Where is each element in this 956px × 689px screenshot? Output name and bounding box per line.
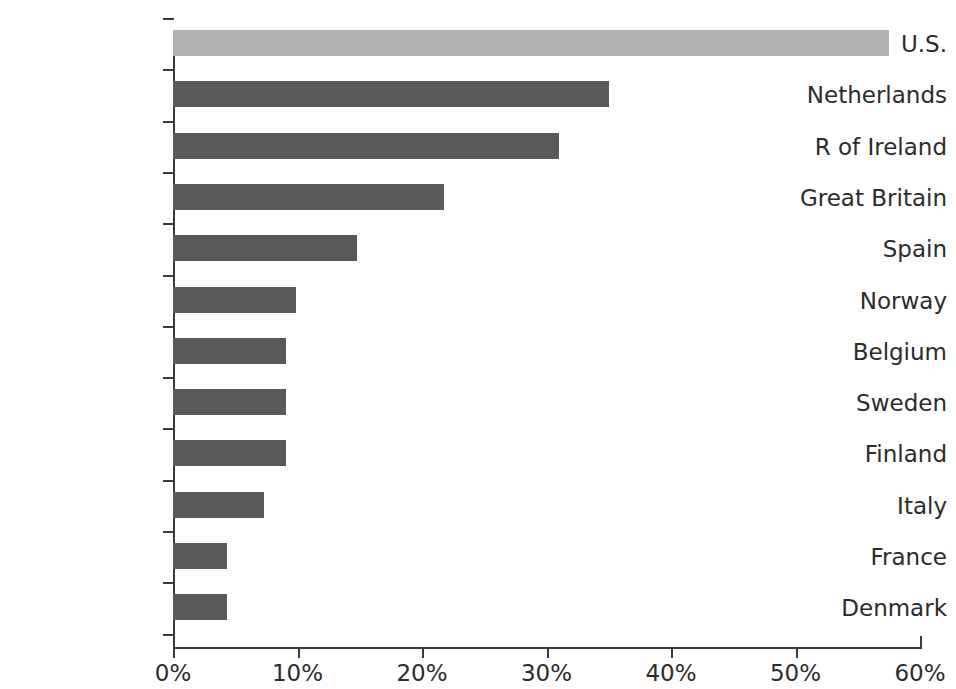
bar <box>173 440 286 466</box>
value-tick <box>796 647 798 658</box>
category-tick <box>163 480 174 482</box>
value-tick <box>422 647 424 658</box>
value-tick <box>173 647 175 658</box>
bar <box>173 594 227 620</box>
category-tick <box>163 326 174 328</box>
category-tick <box>163 428 174 430</box>
category-label: U.S. <box>788 31 956 57</box>
category-label: Belgium <box>788 339 956 365</box>
category-label: Italy <box>788 493 956 519</box>
category-tick <box>163 377 174 379</box>
value-tick <box>671 647 673 658</box>
category-label: Norway <box>788 288 956 314</box>
bar <box>173 81 609 107</box>
value-tick <box>920 636 922 649</box>
bar <box>173 235 357 261</box>
category-label: Sweden <box>788 390 956 416</box>
category-label: Netherlands <box>788 82 956 108</box>
category-tick <box>163 18 174 20</box>
category-tick <box>163 634 174 636</box>
category-tick <box>163 223 174 225</box>
category-label: R of Ireland <box>788 134 956 160</box>
category-tick <box>163 531 174 533</box>
bar <box>173 184 444 210</box>
bar <box>173 389 286 415</box>
value-tick <box>298 647 300 658</box>
value-tick-label: 50% <box>756 660 836 686</box>
bar <box>173 492 264 518</box>
bar-chart: U.S.NetherlandsR of IrelandGreat Britain… <box>0 0 956 689</box>
category-tick <box>163 275 174 277</box>
value-tick-label: 20% <box>382 660 462 686</box>
category-label: Denmark <box>788 595 956 621</box>
bar <box>173 287 296 313</box>
bar <box>173 133 559 159</box>
value-tick-label: 0% <box>133 660 213 686</box>
category-tick <box>163 121 174 123</box>
category-label: France <box>788 544 956 570</box>
value-tick-label: 60% <box>880 660 956 686</box>
category-tick <box>163 69 174 71</box>
value-tick-label: 30% <box>507 660 587 686</box>
chart-title <box>40 0 740 3</box>
bar <box>173 543 227 569</box>
bar <box>173 30 889 56</box>
category-label: Spain <box>788 236 956 262</box>
category-tick <box>163 582 174 584</box>
category-tick <box>163 172 174 174</box>
bar <box>173 338 286 364</box>
value-tick <box>547 647 549 658</box>
category-label: Great Britain <box>788 185 956 211</box>
value-tick-label: 10% <box>258 660 338 686</box>
value-tick-label: 40% <box>631 660 711 686</box>
category-label: Finland <box>788 441 956 467</box>
